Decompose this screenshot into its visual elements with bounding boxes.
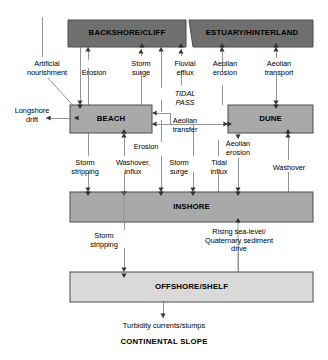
flow-label-tidal-pass: TIDAL PASS [162,90,208,107]
flow-label-erosion-beach: Erosion [124,143,168,152]
arrow-storm-surge-inshore-down [190,187,195,192]
flow-label-storm-surge-inshore: Storm surge [156,159,202,176]
arrow-aeolian-transport-down [273,100,278,105]
flow-label-washover-influx: Washover, influx [104,159,162,176]
arrow-erosion-mid-up [158,47,163,52]
arrow-backshore-to-beach-down [77,100,82,105]
arrow-storm-surge-up [138,49,143,54]
arrow-washover-influx-up [121,133,126,138]
coastal-sediment-flow-diagram: BACKSHORE/CLIFF ESTUARY/HINTERLAND BEACH… [0,0,328,360]
box-label-estuary-hinterland: ESTUARY/HINTERLAND [191,28,313,37]
box-label-backshore-cliff: BACKSHORE/CLIFF [68,28,186,37]
arrow-aeolian-erosion-inshore-down [235,187,240,192]
diagram-connectors [0,0,328,360]
arrow-aeolian-transfer-into-beach [152,121,157,126]
arrow-erosion-up [85,47,90,52]
arrow-tidalpass-into-beach [152,110,157,115]
arrow-aeolian-transport-up [273,47,278,52]
box-label-dune: DUNE [228,114,313,123]
arrow-storm-stripping-offshore-down [121,267,126,272]
continental-slope-label: CONTINENTAL SLOPE [0,337,328,346]
arrow-washover-dune-up [285,133,290,138]
arrow-aeolian-erosion-top-up [219,47,224,52]
box-label-beach: BEACH [70,114,152,123]
flow-label-aeolian-transport: Aeolian transport [251,60,307,77]
flow-label-aeolian-erosion-dune: Aeolian erosion [215,140,261,157]
flow-label-tidal-influx: Tidal influx [198,159,240,176]
flow-label-erosion-backshore: Erosion [72,69,116,78]
flow-label-rising-sea-level: Rising sea-level/ Quaternary sediment dr… [183,228,295,254]
flow-label-longshore-drift: Longshore drift [4,107,60,124]
flow-label-storm-stripping-offshore: Storm stripping [76,232,132,249]
flow-label-storm-surge-backshore: Storm surge [118,60,164,77]
flow-label-aeolian-transfer: Aeolian transfer [159,117,211,134]
box-label-offshore-shelf: OFFSHORE/SHELF [70,282,313,291]
flow-label-aeolian-erosion-top: Aeolian erosion [202,60,248,77]
arrow-fluvial-efflux-up [178,49,183,54]
turbidity-currents-label: Turbidity currents/slumps [0,321,328,330]
arrow-turbidity-down [160,313,165,318]
flow-label-washover-dune: Washover [260,164,318,173]
arrow-storm-stripping-down [85,187,90,192]
box-label-inshore: INSHORE [70,202,313,211]
arrow-erosion-mid-down [158,187,163,192]
